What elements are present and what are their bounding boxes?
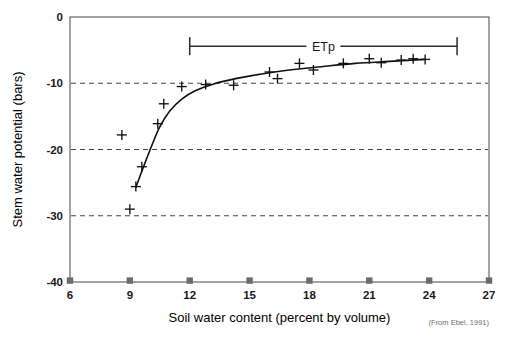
x-axis-tick-label: 21 — [363, 289, 376, 301]
x-axis-tick-label: 24 — [423, 289, 436, 301]
data-point — [117, 130, 127, 140]
data-point — [159, 99, 169, 109]
figure-root: 69121518212427 0-10-20-30-40 ETp Soil wa… — [0, 0, 520, 350]
x-axis-tick-mark — [426, 277, 432, 283]
x-axis-tick-mark — [246, 277, 252, 283]
data-point — [408, 54, 418, 64]
data-point — [265, 67, 275, 77]
x-axis-tick-mark — [67, 277, 73, 283]
data-point — [294, 58, 304, 68]
data-point — [177, 82, 187, 92]
x-axis-tick-mark — [486, 277, 492, 283]
y-axis-tick-label: 0 — [57, 11, 63, 23]
source-credit: (From Ebel, 1991) — [429, 318, 490, 327]
gridlines-group — [71, 83, 488, 216]
y-axis-tick-labels: 0-10-20-30-40 — [46, 11, 63, 288]
x-axis-tick-label: 27 — [483, 289, 496, 301]
data-point-markers — [117, 54, 430, 214]
data-point — [338, 58, 348, 68]
x-axis-tick-label: 6 — [67, 289, 73, 301]
x-axis-tick-label: 9 — [127, 289, 133, 301]
data-point — [125, 204, 135, 214]
x-axis-tick-label: 15 — [243, 289, 256, 301]
y-axis-tick-label: -40 — [46, 276, 63, 288]
y-axis-tick-label: -30 — [46, 210, 63, 222]
x-axis-tick-label: 12 — [183, 289, 196, 301]
etp-label: ETp — [312, 40, 335, 54]
x-axis-tick-mark — [127, 277, 133, 283]
data-point — [131, 182, 141, 192]
data-point — [396, 55, 406, 65]
x-axis-tick-mark — [187, 277, 193, 283]
chart-canvas: 69121518212427 0-10-20-30-40 ETp Soil wa… — [0, 0, 520, 350]
y-axis-title: Stem water potential (bars) — [10, 71, 25, 227]
data-point — [229, 80, 239, 90]
data-point — [153, 119, 163, 129]
x-axis-title: Soil water content (percent by volume) — [169, 310, 391, 325]
x-axis-tick-labels: 69121518212427 — [67, 289, 496, 301]
data-point — [376, 58, 386, 68]
x-axis-tick-label: 18 — [303, 289, 316, 301]
x-axis-tick-marks — [67, 277, 492, 283]
y-axis-tick-label: -10 — [46, 77, 63, 89]
data-point — [273, 74, 283, 84]
x-axis-tick-mark — [366, 277, 372, 283]
y-axis-tick-label: -20 — [46, 144, 63, 156]
x-axis-tick-mark — [306, 277, 312, 283]
data-point — [420, 54, 430, 64]
